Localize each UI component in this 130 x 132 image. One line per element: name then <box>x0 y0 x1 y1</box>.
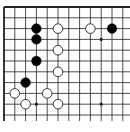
star-point-icon <box>100 38 103 41</box>
white-stone[interactable] <box>53 24 63 34</box>
white-stone[interactable] <box>21 99 31 109</box>
white-stone[interactable] <box>53 67 63 77</box>
white-stone[interactable] <box>42 89 52 99</box>
star-point-icon <box>35 103 38 106</box>
white-stone[interactable] <box>53 45 63 55</box>
black-stone[interactable] <box>32 35 42 45</box>
star-point-icon <box>100 103 103 106</box>
black-stone[interactable] <box>21 78 31 88</box>
black-stone[interactable] <box>32 24 42 34</box>
black-stone[interactable] <box>32 56 42 66</box>
white-stone[interactable] <box>86 24 96 34</box>
stones-layer[interactable] <box>10 24 117 109</box>
white-stone[interactable] <box>10 89 20 99</box>
white-stone[interactable] <box>53 99 63 109</box>
black-stone[interactable] <box>107 24 117 34</box>
go-board[interactable] <box>0 0 130 132</box>
